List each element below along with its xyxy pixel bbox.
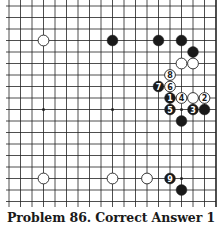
black-stone-move-3: 3 <box>188 104 199 115</box>
move-number: 4 <box>179 94 185 103</box>
move-number: 2 <box>202 94 208 103</box>
white-stone-move-6: 6 <box>165 81 176 92</box>
move-number: 5 <box>167 106 173 115</box>
go-board: 876142539 <box>0 0 222 210</box>
star-point <box>111 108 114 111</box>
white-stone-move-8: 8 <box>165 70 176 81</box>
black-stone-move-1: 1 <box>165 93 176 104</box>
white-stone-move-2: 2 <box>199 93 210 104</box>
black-stone <box>176 116 187 127</box>
move-number: 6 <box>167 83 173 92</box>
diagram-caption: Problem 86. Correct Answer 1 <box>0 210 222 225</box>
white-stone <box>142 173 153 184</box>
black-stone <box>199 104 210 115</box>
move-number: 3 <box>190 106 196 115</box>
star-point <box>180 108 183 111</box>
move-number: 9 <box>167 175 173 184</box>
white-stone <box>107 173 118 184</box>
move-number: 1 <box>167 94 173 103</box>
white-stone <box>188 93 199 104</box>
black-stone <box>107 35 118 46</box>
white-stone <box>176 58 187 69</box>
black-stone-move-7: 7 <box>153 81 164 92</box>
black-stone <box>153 35 164 46</box>
black-stone <box>176 35 187 46</box>
white-stone <box>188 58 199 69</box>
black-stone <box>176 185 187 196</box>
black-stone <box>188 47 199 58</box>
white-stone <box>38 173 49 184</box>
white-stone-move-4: 4 <box>176 93 187 104</box>
star-point <box>180 177 183 180</box>
black-stone-move-9: 9 <box>165 173 176 184</box>
move-number: 8 <box>167 71 173 80</box>
white-stone <box>38 35 49 46</box>
move-number: 7 <box>156 83 162 92</box>
star-point <box>42 108 45 111</box>
black-stone-move-5: 5 <box>165 104 176 115</box>
